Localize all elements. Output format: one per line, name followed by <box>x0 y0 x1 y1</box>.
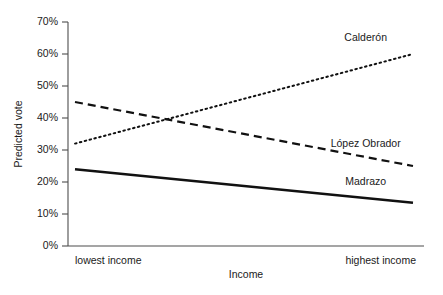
x-tick-label-highest: highest income <box>345 254 416 266</box>
y-tick-label: 30% <box>37 143 58 155</box>
series-label-group: CalderónLópez ObradorMadrazo <box>331 31 402 187</box>
series-label-l-pez-obrador: López Obrador <box>331 137 402 149</box>
series-line-l-pez-obrador <box>75 102 413 166</box>
y-tick-label: 0% <box>43 239 58 251</box>
x-axis-title: Income <box>229 268 264 280</box>
y-tick-label: 20% <box>37 175 58 187</box>
x-tick-label-lowest: lowest income <box>75 254 142 266</box>
series-line-calder-n <box>75 54 413 144</box>
y-tick-label: 60% <box>37 47 58 59</box>
y-axis-title: Predicted vote <box>12 100 24 167</box>
series-label-calder-n: Calderón <box>344 31 387 43</box>
y-tick-label: 50% <box>37 79 58 91</box>
y-tick-label: 40% <box>37 111 58 123</box>
y-axis: 0%10%20%30%40%50%60%70% <box>37 15 68 251</box>
y-tick-label: 70% <box>37 15 58 27</box>
y-tick-group: 0%10%20%30%40%50%60%70% <box>37 15 68 251</box>
y-tick-label: 10% <box>37 207 58 219</box>
series-label-madrazo: Madrazo <box>345 175 386 187</box>
line-chart: 0%10%20%30%40%50%60%70% CalderónLópez Ob… <box>0 0 443 295</box>
chart-figure: 0%10%20%30%40%50%60%70% CalderónLópez Ob… <box>0 0 443 295</box>
